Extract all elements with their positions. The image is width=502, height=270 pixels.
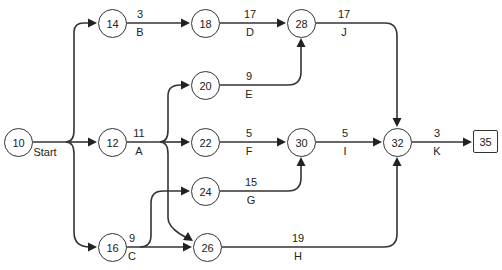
node-32: 32 [383, 128, 412, 157]
edge-start-to-14 [66, 23, 92, 142]
duration-G: 15 [245, 176, 257, 188]
node-28: 28 [287, 9, 316, 38]
duration-D: 17 [244, 8, 256, 20]
arrowhead-icon [181, 187, 190, 196]
network-diagram: 10 12 14 16 18 20 22 24 26 28 30 32 35 S… [0, 0, 502, 270]
arrowhead-icon [181, 138, 190, 147]
activity-G: G [247, 194, 256, 206]
activity-D: D [246, 26, 254, 38]
node-14: 14 [98, 9, 127, 38]
node-20: 20 [191, 71, 220, 100]
arrowhead-icon [88, 243, 97, 252]
duration-K: 3 [434, 127, 440, 139]
arrowhead-icon [181, 19, 190, 28]
edge-J [316, 23, 397, 120]
node-12: 12 [98, 128, 127, 157]
activity-I: I [343, 145, 346, 157]
activity-J: J [341, 26, 347, 38]
duration-F: 5 [246, 127, 252, 139]
arrowhead-icon [277, 138, 286, 147]
activity-E: E [245, 88, 252, 100]
duration-J: 17 [338, 8, 350, 20]
start-label: Start [33, 146, 56, 158]
node-18: 18 [191, 9, 220, 38]
activity-F: F [246, 145, 253, 157]
arrowhead-icon [393, 118, 402, 127]
edge-start-to-16 [66, 142, 92, 247]
edge-G [220, 164, 301, 191]
node-35-end: 35 [473, 130, 498, 153]
node-10: 10 [4, 128, 33, 157]
node-30: 30 [287, 128, 316, 157]
activity-C: C [128, 250, 136, 262]
activity-K: K [433, 145, 440, 157]
duration-I: 5 [342, 127, 348, 139]
node-24: 24 [191, 177, 220, 206]
arrowhead-icon [181, 81, 190, 90]
node-16: 16 [98, 233, 127, 262]
arrowhead-icon [88, 138, 97, 147]
arrowhead-icon [277, 19, 286, 28]
duration-A: 11 [133, 127, 144, 139]
arrowhead-icon [183, 243, 192, 252]
edge-C-to-24 [140, 191, 185, 247]
edge-A-to-20 [160, 85, 185, 142]
duration-C: 9 [129, 232, 135, 244]
arrowhead-icon [393, 157, 402, 166]
activity-A: A [135, 145, 142, 157]
node-22: 22 [191, 128, 220, 157]
duration-B: 3 [137, 8, 143, 20]
arrowhead-icon [373, 138, 382, 147]
arrowhead-icon [88, 19, 97, 28]
duration-E: 9 [246, 70, 252, 82]
edge-E [220, 45, 301, 85]
node-26: 26 [193, 233, 222, 262]
arrowhead-icon [297, 157, 306, 166]
duration-H: 19 [292, 232, 304, 244]
activity-B: B [136, 26, 143, 38]
arrowhead-icon [297, 38, 306, 47]
arrowhead-icon [463, 138, 472, 147]
activity-H: H [294, 250, 302, 262]
